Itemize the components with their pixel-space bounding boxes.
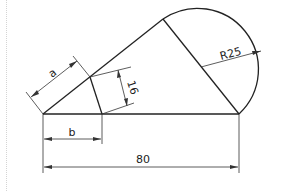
- dim-16-label: 16: [124, 79, 141, 96]
- dim-b-arrow-1: [44, 137, 52, 141]
- slant-edge: [43, 19, 163, 114]
- technical-drawing: a 16 b 80 R25: [0, 0, 283, 191]
- dim-r25-label: R25: [218, 45, 242, 63]
- dim-b-label: b: [69, 126, 76, 139]
- dim-a-label: a: [46, 66, 59, 80]
- dim-a-arrow-1: [31, 90, 39, 97]
- dim-80-arrow-1: [44, 165, 52, 169]
- semicircle-arc: [163, 8, 258, 114]
- chord-edge: [163, 19, 239, 114]
- dim-80-label: 80: [136, 153, 150, 166]
- perpendicular-segment: [90, 77, 102, 114]
- dim-a-extension-2: [73, 56, 90, 77]
- dim-16-arrow-2: [124, 98, 128, 106]
- dim-b-arrow-2: [93, 137, 101, 141]
- dim-16-arrow-1: [117, 70, 121, 78]
- dim-16-extension-2: [102, 103, 134, 114]
- dim-a-arrow-2: [69, 61, 77, 68]
- dim-80-arrow-2: [230, 165, 238, 169]
